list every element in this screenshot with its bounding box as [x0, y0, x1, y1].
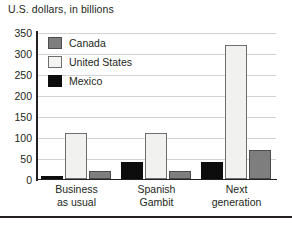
mexico-swatch [48, 75, 62, 87]
y-tick-label: 150 [14, 111, 32, 123]
bar-canada [89, 171, 111, 179]
legend-item-label: Canada [69, 37, 106, 49]
y-tick-label: 350 [14, 27, 32, 39]
bar-us [65, 133, 87, 179]
bar-us [225, 45, 247, 179]
y-tick-label: 100 [14, 132, 32, 144]
bar-mexico [201, 162, 223, 179]
bar-canada [169, 171, 191, 179]
y-tick-label: 200 [14, 90, 32, 102]
united-states-swatch [48, 56, 62, 68]
legend-item: Canada [48, 33, 154, 52]
y-tick-label: 50 [20, 153, 32, 165]
y-axis-line [36, 31, 38, 181]
chart-title: U.S. dollars, in billions [8, 3, 114, 15]
bar-chart-figure: U.S. dollars, in billions 05010015020025… [0, 0, 292, 225]
x-category-label: Nextgeneration [189, 183, 284, 209]
legend-item-label: Mexico [69, 75, 102, 87]
legend-item: Mexico [48, 71, 154, 90]
chart-legend: CanadaUnited StatesMexico [48, 33, 154, 90]
bar-us [145, 133, 167, 179]
y-tick-label: 250 [14, 69, 32, 81]
footer-divider [0, 216, 292, 218]
x-category-label-line: Next [189, 183, 284, 196]
canada-swatch [48, 37, 62, 49]
bar-group [201, 33, 272, 180]
bar-mexico [121, 162, 143, 179]
legend-item: United States [48, 52, 154, 71]
bar-canada [249, 150, 271, 179]
x-category-label-line: generation [189, 196, 284, 209]
y-tick-label: 300 [14, 48, 32, 60]
bar-mexico [41, 176, 63, 179]
legend-item-label: United States [69, 56, 132, 68]
